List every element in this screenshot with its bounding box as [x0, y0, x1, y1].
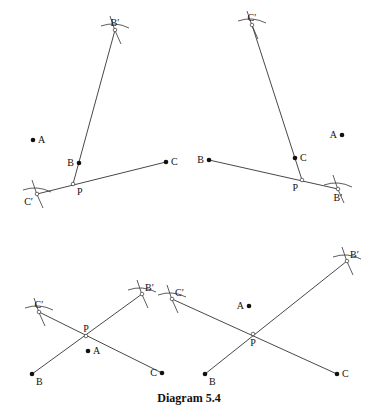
- point-C-prime: [35, 192, 39, 196]
- point-B: [207, 158, 212, 163]
- point-B-prime: [336, 187, 340, 191]
- point-B-prime: [140, 292, 144, 296]
- point-P-label: P: [83, 323, 89, 334]
- point-P-label: P: [250, 337, 256, 348]
- point-A: [247, 304, 252, 309]
- point-A-label: A: [330, 129, 338, 140]
- point-A-label: A: [38, 134, 46, 145]
- segment-Cprime-C: [39, 312, 162, 373]
- point-C-prime-label: C′: [35, 299, 44, 310]
- point-C-prime: [250, 23, 254, 27]
- point-C-prime-label: C′: [248, 12, 257, 23]
- point-C-label: C: [150, 367, 157, 378]
- point-C: [293, 156, 298, 161]
- diagram-caption: Diagram 5.4: [157, 391, 220, 405]
- point-C-label: C: [171, 156, 178, 167]
- point-A-label: A: [93, 345, 101, 356]
- point-B-label: B: [36, 376, 43, 387]
- point-B-label: B: [197, 154, 204, 165]
- point-B-prime-label: B′: [350, 249, 359, 260]
- point-B: [203, 372, 208, 377]
- point-B-prime: [113, 28, 117, 32]
- point-B-prime: [345, 259, 349, 263]
- point-B-prime-label: B′: [111, 17, 120, 28]
- panel-bottom-right: ABCPB′C′: [158, 247, 361, 387]
- panel-top-left: ABCPB′C′: [23, 16, 178, 208]
- point-C-prime-label: C′: [24, 196, 33, 207]
- point-C: [335, 372, 340, 377]
- point-B-label: B: [67, 157, 74, 168]
- point-C-prime: [37, 310, 41, 314]
- panel-top-right: ABCPB′C′: [197, 11, 352, 203]
- point-A-label: A: [237, 300, 245, 311]
- point-C-label: C: [300, 152, 307, 163]
- point-C: [164, 160, 169, 165]
- panel-bottom-left: ABCPB′C′: [25, 280, 164, 387]
- segment-Cprime-C: [37, 162, 166, 194]
- point-P-label: P: [292, 182, 298, 193]
- point-P-label: P: [77, 186, 83, 197]
- point-B: [77, 161, 82, 166]
- point-B: [30, 372, 35, 377]
- diagram-canvas: ABCPB′C′ABCPB′C′ABCPB′C′ABCPB′C′ Diagram…: [0, 0, 378, 411]
- point-A: [31, 138, 36, 143]
- segment-B-Bprime: [205, 261, 347, 374]
- point-C-label: C: [342, 368, 349, 379]
- segment-B-Bprime: [209, 160, 338, 189]
- point-B-prime-label: B′: [145, 282, 154, 293]
- point-A: [340, 133, 345, 138]
- point-B-label: B: [209, 376, 216, 387]
- point-C-prime: [170, 297, 174, 301]
- point-B-prime-label: B′: [334, 192, 343, 203]
- point-C-prime-label: C′: [175, 287, 184, 298]
- point-P: [300, 178, 304, 182]
- point-A: [86, 349, 91, 354]
- point-P: [71, 182, 75, 186]
- segment-B-Bprime: [32, 294, 142, 374]
- point-C: [160, 371, 165, 376]
- point-P: [251, 332, 255, 336]
- point-P: [84, 334, 88, 338]
